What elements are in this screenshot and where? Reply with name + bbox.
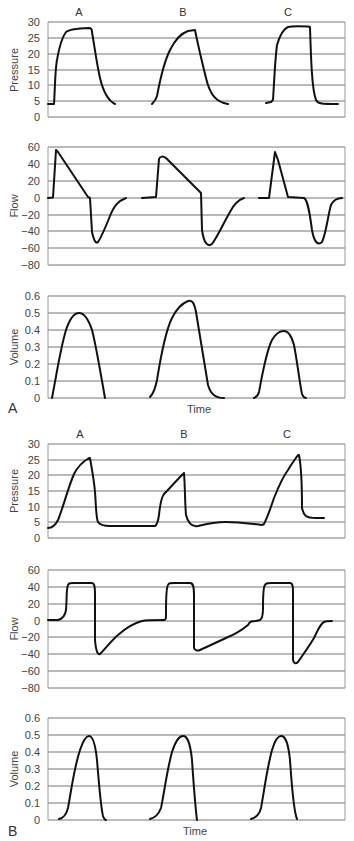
ytick: 30 [28,16,40,28]
ytick: 0.3 [25,763,40,775]
y-axis-label: Flow [8,617,20,640]
ytick: 5 [34,95,40,107]
ytick: −40 [21,648,40,660]
panel-label-b: B [8,823,17,839]
y-axis-label: Flow [8,194,20,217]
volume-curve-a [59,736,106,820]
ytick: 0 [34,192,40,204]
ytick: 60 [28,141,40,153]
ytick: 0.1 [25,797,40,809]
pressure-chart-a: 30 25 20 15 10 5 0 Pressure [8,16,345,123]
flow-curve-b [164,583,332,663]
volume-curve-c [251,736,297,819]
y-axis-label: Volume [8,329,20,366]
flow-chart-a: 60 40 20 0 −20 −40 −60 −80 Flow [8,141,345,271]
ytick: 10 [28,79,40,91]
ytick: 20 [28,175,40,187]
ytick: 0 [34,532,40,544]
panel-b: A B C 30 25 20 15 10 5 0 Pressure [8,428,345,839]
volume-curve-b [150,301,224,398]
column-label-b: B [180,428,187,440]
ytick: 0.2 [25,358,40,370]
pressure-curve-b [152,30,228,104]
volume-curve-a [52,313,105,398]
ytick: 15 [28,485,40,497]
y-axis-label: Pressure [8,469,20,513]
ytick: 20 [28,598,40,610]
flow-curve-b [142,157,244,245]
flow-chart-b: 60 40 20 0 −20 −40 −60 −80 Flow [8,564,345,694]
ytick: 40 [28,158,40,170]
ventilator-waveform-figure: A B C 30 25 20 15 10 5 0 Pressure [0,0,354,841]
ytick: −80 [21,259,40,271]
ytick: 0.5 [25,729,40,741]
ytick: 15 [28,64,40,76]
ytick: 0.4 [25,746,40,758]
ytick: −20 [21,209,40,221]
ytick: 0 [34,615,40,627]
ytick: 0.3 [25,341,40,353]
column-label-a: A [76,428,84,440]
ytick: 0.6 [25,290,40,302]
ytick: 0 [34,392,40,404]
flow-curve-a [48,583,164,654]
volume-chart-a: 0.6 0.5 0.4 0.3 0.2 0.1 0 Volume [8,290,345,404]
column-label-a: A [75,6,83,18]
panel-a: A B C 30 25 20 15 10 5 0 Pressure [8,6,345,416]
ytick: 20 [28,469,40,481]
ytick: 30 [28,438,40,450]
x-axis-label: Time [187,403,211,415]
ytick: −20 [21,631,40,643]
ytick: −40 [21,225,40,237]
pressure-chart-b: 30 25 20 15 10 5 0 Pressure [8,438,345,544]
ytick: 20 [28,48,40,60]
panel-label-a: A [8,400,18,416]
ytick: 10 [28,501,40,513]
volume-curve-b [150,736,197,820]
ytick: 0 [34,814,40,826]
ytick: 0.1 [25,375,40,387]
column-label-c: C [284,6,292,18]
column-label-b: B [179,6,186,18]
ytick: 0.6 [25,712,40,724]
ytick: −80 [21,682,40,694]
ytick: 25 [28,454,40,466]
y-axis-label: Volume [8,751,20,788]
y-axis-label: Pressure [8,48,20,92]
ytick: 0 [34,111,40,123]
volume-chart-b: 0.6 0.5 0.4 0.3 0.2 0.1 0 Volume [8,712,345,826]
x-axis-label: Time [183,825,207,837]
ytick: 0.4 [25,324,40,336]
ytick: 40 [28,581,40,593]
ytick: −60 [21,242,40,254]
ytick: 0.5 [25,307,40,319]
ytick: 0.2 [25,780,40,792]
ytick: −60 [21,665,40,677]
ytick: 25 [28,32,40,44]
ytick: 60 [28,564,40,576]
ytick: 5 [34,516,40,528]
column-label-c: C [283,428,291,440]
pressure-curve-a [48,28,115,104]
